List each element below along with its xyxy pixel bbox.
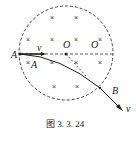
field-marker-cross-icon: × [74, 59, 78, 66]
field-marker-cross-icon: × [50, 59, 54, 66]
label-O: O [63, 39, 70, 50]
label-A-inner: A [30, 59, 38, 70]
field-marker-cross-icon: × [74, 14, 78, 21]
label-A: A [10, 49, 18, 60]
field-marker-cross-icon: × [52, 83, 56, 90]
figure-caption: 图 3. 3. 24 [46, 119, 85, 129]
label-v-entry: v [37, 42, 42, 53]
point-A-dot [19, 53, 22, 56]
field-marker-cross-icon: × [75, 83, 79, 90]
field-marker-cross-icon: × [26, 59, 30, 66]
label-v-exit: v [126, 103, 131, 114]
field-marker-cross-icon: × [50, 36, 54, 43]
center-O-dot [65, 53, 68, 56]
field-marker-cross-icon: × [98, 59, 102, 66]
field-marker-cross-icon: × [74, 36, 78, 43]
entry-arrowhead-icon [41, 52, 46, 56]
label-O-second: O [91, 39, 98, 50]
magnetic-field-diagram: ×××××××××××× A A v O O B v 图 3. 3. 24 [0, 0, 136, 142]
point-B-dot [99, 87, 101, 89]
field-marker-cross-icon: × [98, 36, 102, 43]
label-B: B [112, 85, 118, 96]
field-marker-cross-icon: × [50, 14, 54, 21]
field-marker-cross-icon: × [26, 36, 30, 43]
